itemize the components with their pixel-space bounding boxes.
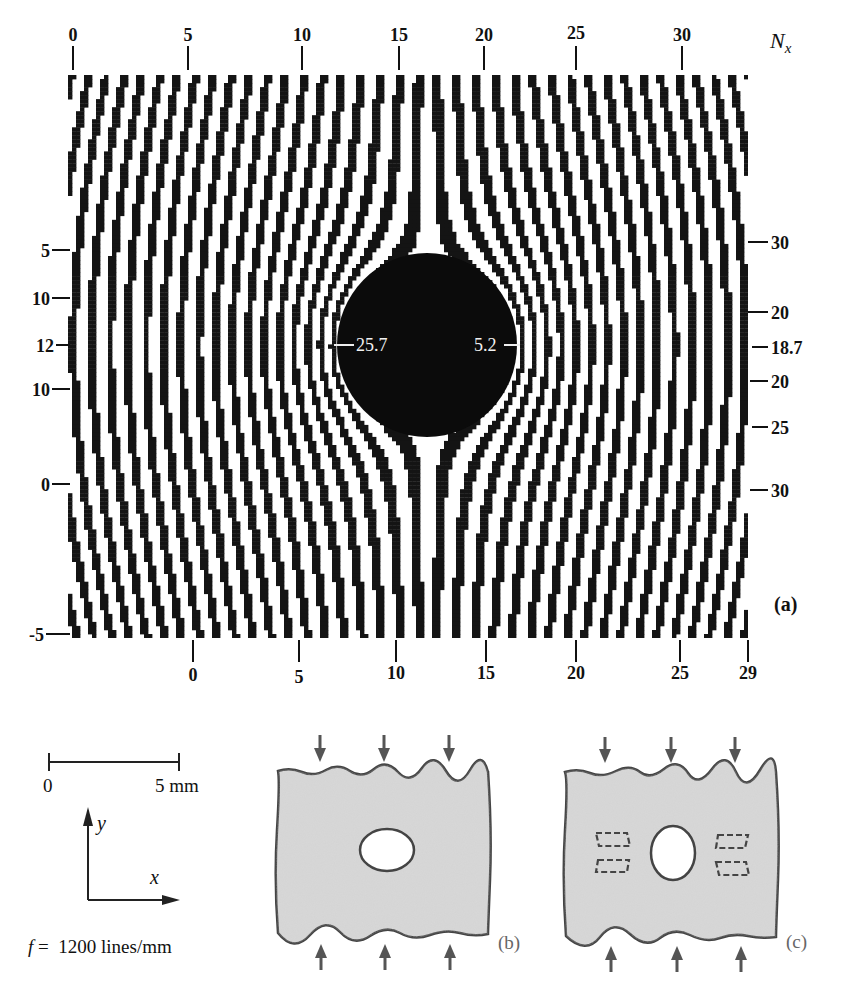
panel-b-label: (b) — [498, 932, 520, 954]
top-axis-tick-label: 10 — [293, 26, 311, 44]
hole-shape — [651, 826, 695, 880]
right-axis-tick-label: 30 — [771, 482, 789, 500]
bottom-axis-tick-label: 10 — [387, 664, 405, 682]
scale-bar-end-label: 5 mm — [155, 775, 199, 797]
hole-right-fringe-order: 5.2 — [474, 335, 497, 356]
right-axis-tick-label: 25 — [771, 419, 789, 437]
top-axis-tick-label: 0 — [69, 26, 78, 44]
top-axis-tick-label: 25 — [567, 24, 585, 42]
top-axis-tick-label: 5 — [184, 26, 193, 44]
plate-with-hole-diagram — [260, 720, 550, 1004]
scale-bar — [0, 740, 260, 1004]
left-axis-tick-label: 0 — [2, 476, 50, 494]
top-axis-title: Nx — [770, 28, 791, 57]
top-axis-tick-label: 30 — [673, 26, 691, 44]
grating-frequency: f = 1200 lines/mm — [28, 936, 172, 958]
fringe-pattern-panel: 0 5 10 15 20 25 30 Nx 5 10 12 10 0 -5 30… — [0, 0, 842, 700]
right-axis-tick-label: 18.7 — [771, 339, 803, 357]
bottom-axis-tick-label: 0 — [189, 666, 198, 684]
left-axis-tick-label: 12 — [6, 337, 54, 355]
left-axis-tick-label: 5 — [2, 242, 50, 260]
bottom-axis-tick-label: 15 — [477, 664, 495, 682]
panel-c-specimen-diagram: (c) — [560, 720, 842, 1004]
scale-bar-start-label: 0 — [43, 775, 53, 797]
hole-left-fringe-order: 25.7 — [356, 335, 388, 356]
y-axis-label: y — [97, 812, 106, 835]
left-axis-tick-label: 10 — [2, 381, 50, 399]
left-axis-tick-label: 10 — [2, 290, 50, 308]
top-axis-tick-label: 15 — [390, 26, 408, 44]
panel-c-label: (c) — [786, 931, 807, 953]
plate-with-hole-and-gratings-diagram — [560, 720, 842, 1004]
left-axis-tick-label: -5 — [0, 626, 44, 644]
bottom-axis-tick-label: 25 — [671, 664, 689, 682]
bottom-axis-tick-label: 20 — [567, 664, 585, 682]
fringe-pattern-image — [0, 0, 842, 700]
panel-a-label: (a) — [774, 593, 797, 616]
hole-shape — [360, 829, 414, 871]
top-axis-ticks — [73, 46, 682, 70]
bottom-axis-tick-label: 29 — [739, 664, 757, 682]
right-axis-tick-label: 20 — [771, 304, 789, 322]
panel-b-specimen-diagram: (b) — [260, 720, 550, 1004]
x-axis-label: x — [150, 866, 159, 889]
right-axis-tick-label: 30 — [771, 234, 789, 252]
right-axis-ticks — [748, 242, 768, 490]
legend-area: 0 5 mm y x f = 1200 lines/mm — [0, 740, 260, 1004]
bottom-axis-ticks — [193, 640, 748, 662]
top-axis-tick-label: 20 — [475, 26, 493, 44]
bottom-axis-tick-label: 5 — [295, 668, 304, 686]
right-axis-tick-label: 20 — [771, 373, 789, 391]
